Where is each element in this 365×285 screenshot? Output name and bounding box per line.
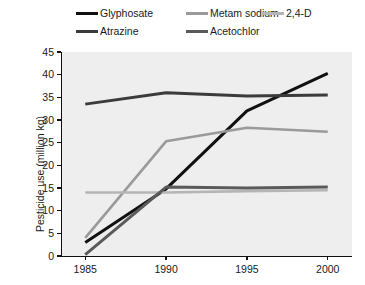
y-tick: [57, 51, 61, 52]
chart-legend: Glyphosate Metam sodium 2,4-D Atrazine A…: [0, 0, 365, 44]
series-canvas: [61, 52, 352, 256]
legend-swatch-metam-sodium: [186, 12, 208, 15]
y-tick: [57, 187, 61, 188]
y-tick-label: 5: [24, 228, 54, 238]
legend-item-atrazine: Atrazine: [76, 26, 139, 36]
x-tick-label: 1995: [227, 263, 267, 275]
legend-swatch-atrazine: [76, 30, 98, 33]
y-tick: [57, 233, 61, 234]
y-tick-label: 35: [24, 92, 54, 102]
pesticide-use-line-chart: Glyphosate Metam sodium 2,4-D Atrazine A…: [0, 0, 365, 285]
y-tick: [57, 165, 61, 166]
y-axis-title-wrap: Pesticide use (million kg): [10, 60, 30, 250]
y-tick-label: 25: [24, 137, 54, 147]
series-line-2-4-d: [85, 190, 328, 192]
legend-label-atrazine: Atrazine: [100, 26, 139, 36]
legend-label-glyphosate: Glyphosate: [100, 8, 153, 18]
legend-item-acetochlor: Acetochlor: [186, 26, 260, 36]
y-tick: [57, 255, 61, 256]
plot-area: [61, 52, 352, 256]
y-tick: [57, 119, 61, 120]
x-axis-line: [61, 256, 352, 257]
y-tick: [57, 210, 61, 211]
x-tick: [165, 256, 166, 260]
x-tick-label: 1990: [146, 263, 186, 275]
x-tick: [246, 256, 247, 260]
legend-label-acetochlor: Acetochlor: [210, 26, 260, 36]
legend-swatch-2-4-d: [262, 12, 284, 15]
legend-item-2-4-d: 2,4-D: [262, 8, 312, 18]
series-line-acetochlor: [85, 187, 328, 255]
x-tick-label: 2000: [308, 263, 348, 275]
y-axis-line: [61, 52, 62, 256]
y-tick-label: 40: [24, 69, 54, 79]
x-tick: [327, 256, 328, 260]
y-tick: [57, 142, 61, 143]
series-line-metam-sodium: [85, 128, 328, 238]
legend-swatch-glyphosate: [76, 12, 98, 15]
legend-label-2-4-d: 2,4-D: [286, 8, 312, 18]
legend-item-glyphosate: Glyphosate: [76, 8, 153, 18]
y-tick-label: 30: [24, 115, 54, 125]
y-tick-label: 0: [24, 251, 54, 261]
y-tick-label: 45: [24, 47, 54, 57]
series-line-atrazine: [85, 93, 328, 104]
y-tick: [57, 97, 61, 98]
y-tick: [57, 74, 61, 75]
x-tick: [85, 256, 86, 260]
y-tick-label: 20: [24, 160, 54, 170]
legend-swatch-acetochlor: [186, 30, 208, 33]
y-tick-label: 10: [24, 205, 54, 215]
x-tick-label: 1985: [65, 263, 105, 275]
y-tick-label: 15: [24, 183, 54, 193]
